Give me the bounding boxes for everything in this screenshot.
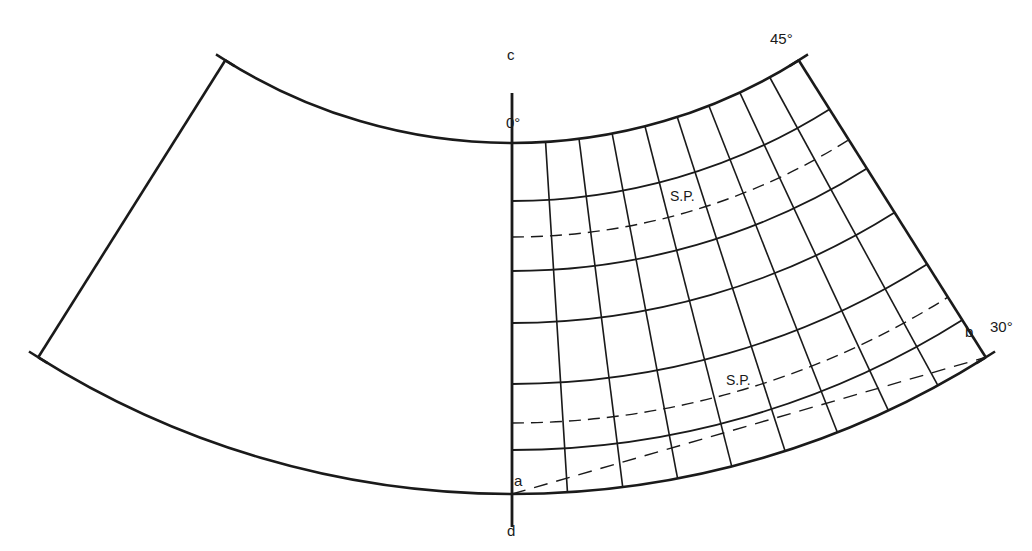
- parallel-line: [512, 264, 927, 384]
- meridian-line: [645, 126, 732, 466]
- left-edge: [38, 60, 225, 357]
- label-30-degree: 30°: [990, 318, 1013, 335]
- standard-parallels: [512, 140, 986, 494]
- corner-tick-3: [29, 351, 48, 363]
- label-point-c: c: [507, 46, 515, 63]
- meridian-line: [770, 77, 938, 385]
- label-point-b: b: [965, 323, 973, 340]
- right-edge: [799, 60, 986, 357]
- label-standard-parallel-lower: S.P.: [726, 372, 751, 388]
- standard-parallel-lower: [512, 297, 948, 423]
- corner-tick-0: [789, 54, 808, 66]
- label-zero-degree: 0°: [506, 114, 520, 131]
- meridian-line: [546, 142, 568, 492]
- meridian-line: [740, 92, 889, 410]
- conic-projection-diagram: c 0° 45° 30° a d b S.P. S.P.: [0, 0, 1032, 551]
- label-45-degree: 45°: [770, 30, 793, 47]
- corner-tick-2: [976, 351, 995, 363]
- meridian-line: [677, 117, 785, 451]
- label-point-a: a: [514, 472, 523, 489]
- label-point-d: d: [507, 522, 515, 539]
- label-standard-parallel-upper: S.P.: [670, 188, 695, 204]
- corner-tick-1: [216, 54, 235, 66]
